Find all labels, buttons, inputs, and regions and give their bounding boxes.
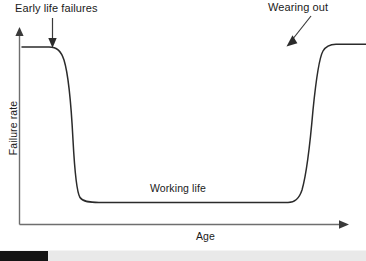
early-life-failures-arrow [48, 18, 56, 48]
reliability-curve-chart [0, 0, 366, 261]
annotation-early-life-failures: Early life failures [15, 2, 98, 14]
working-life-leader [150, 196, 161, 203]
bottom-ui-strip [0, 250, 366, 261]
annotation-working-life: Working life [150, 182, 206, 194]
annotation-wearing-out: Wearing out [268, 1, 328, 13]
bathtub-curve-figure: Early life failures Wearing out Working … [0, 0, 366, 261]
x-axis [20, 220, 350, 229]
wearing-out-arrow [287, 16, 312, 47]
y-axis-arrowhead [15, 27, 23, 36]
bottom-strip-divider [0, 250, 366, 251]
bathtub-curve-path [22, 44, 366, 202]
x-axis-arrowhead [339, 220, 349, 229]
x-axis-label: Age [196, 230, 215, 242]
bottom-strip-dark-segment[interactable] [0, 250, 48, 261]
bottom-strip-light-segment [0, 250, 366, 261]
y-axis-label: Failure rate [7, 93, 19, 163]
